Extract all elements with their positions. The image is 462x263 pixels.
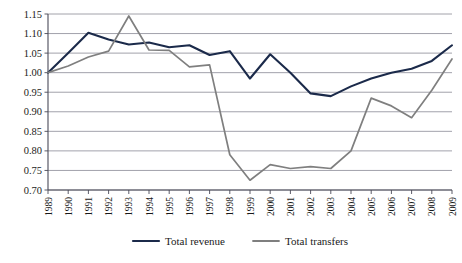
x-tick-label: 2005: [367, 197, 377, 216]
x-tick-label: 2009: [448, 197, 458, 216]
x-tick-label: 1999: [246, 197, 256, 216]
y-tick-label: 1.00: [24, 67, 42, 78]
y-tick-label: 0.90: [24, 106, 42, 117]
chart-legend: Total revenueTotal transfers: [133, 235, 348, 247]
legend-label: Total revenue: [165, 235, 225, 247]
legend-label: Total transfers: [285, 235, 348, 247]
x-tick-label: 1993: [124, 197, 134, 216]
x-tick-label: 2007: [407, 197, 417, 216]
x-tick-label: 2004: [347, 197, 357, 216]
y-tick-label: 0.70: [24, 185, 42, 196]
x-tick-label: 1992: [104, 197, 114, 216]
x-tick-label: 2000: [266, 197, 276, 216]
y-tick-label: 1.10: [24, 28, 42, 39]
y-tick-label: 1.15: [24, 9, 42, 20]
data-series: [48, 16, 452, 180]
gridlines: [45, 14, 453, 194]
x-tick-label: 2002: [306, 197, 316, 216]
x-tick-label: 2003: [326, 197, 336, 216]
x-tick-label: 2008: [427, 197, 437, 216]
x-tick-label: 1996: [185, 197, 195, 216]
y-tick-label: 0.75: [24, 165, 42, 176]
y-axis-tick-labels: 0.700.750.800.850.900.951.001.051.101.15: [24, 9, 42, 196]
series-line-total-revenue: [48, 33, 452, 96]
chart-canvas: 0.700.750.800.850.900.951.001.051.101.15…: [0, 0, 462, 263]
y-tick-label: 1.05: [24, 48, 42, 59]
x-tick-label: 1989: [44, 197, 54, 216]
x-tick-label: 1997: [205, 197, 215, 216]
y-tick-label: 0.85: [24, 126, 42, 137]
line-chart: 0.700.750.800.850.900.951.001.051.101.15…: [0, 0, 462, 263]
x-tick-label: 1998: [225, 197, 235, 216]
y-tick-label: 0.80: [24, 145, 42, 156]
x-tick-label: 1990: [64, 197, 74, 216]
series-line-total-transfers: [48, 16, 452, 180]
x-tick-label: 1994: [145, 197, 155, 216]
x-tick-label: 2001: [286, 197, 296, 216]
x-tick-label: 1995: [165, 197, 175, 216]
x-axis-tick-labels: 1989199019911992199319941995199619971998…: [44, 197, 458, 216]
x-tick-label: 1991: [84, 197, 94, 216]
x-tick-label: 2006: [387, 197, 397, 216]
y-tick-label: 0.95: [24, 87, 42, 98]
